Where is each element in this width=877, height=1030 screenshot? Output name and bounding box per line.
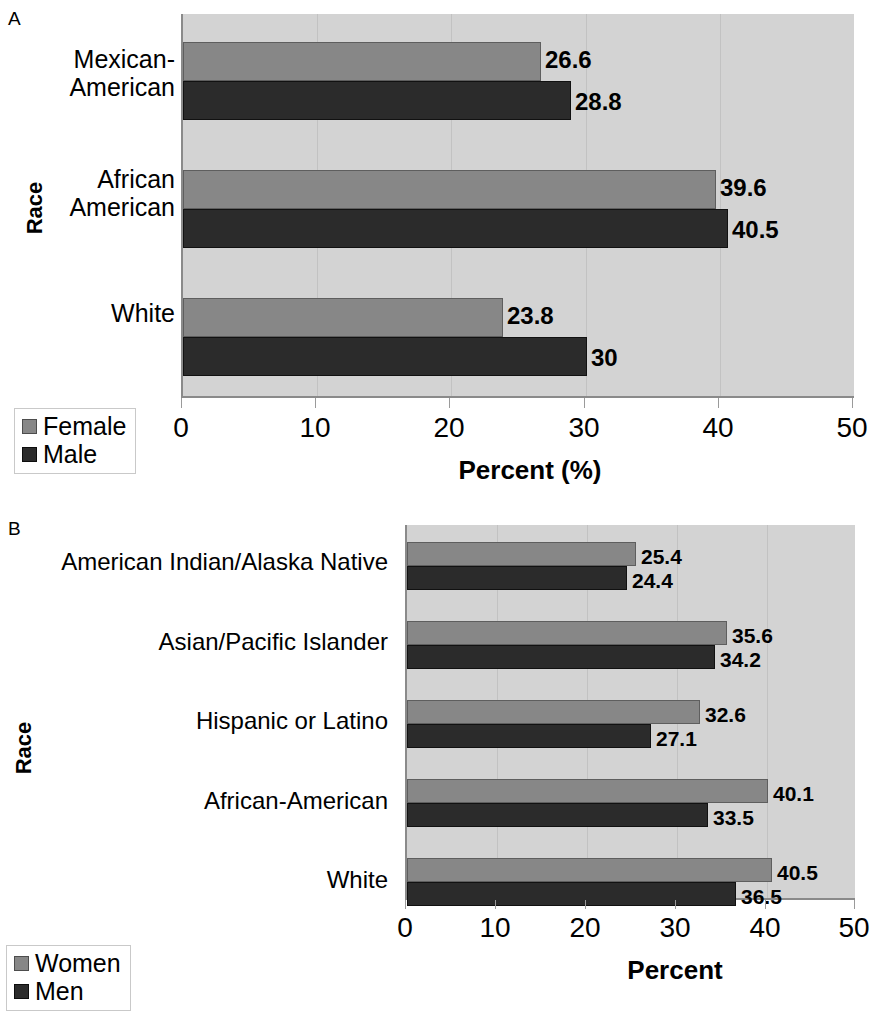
panel-b-bar-male-0	[407, 566, 627, 590]
panel-b-value-female-0: 25.4	[641, 546, 682, 567]
panel-a-tick-label-0: 0	[151, 412, 211, 444]
panel-a-value-male-0: 28.8	[575, 90, 622, 114]
panel-a-bar-female-1	[183, 170, 716, 209]
panel-a-category-label-1-line-1: American	[30, 194, 175, 222]
panel-b: B Race American Indian/Alaska Native Asi…	[0, 500, 877, 1030]
panel-b-category-label-2: Hispanic or Latino	[25, 708, 388, 734]
panel-b-bar-female-2	[407, 700, 700, 724]
panel-a-tick-40	[718, 398, 719, 408]
panel-a-legend-label-female: Female	[43, 414, 126, 439]
panel-b-category-label-3-line-0: African-American	[25, 788, 388, 814]
panel-a-bar-male-2	[183, 337, 587, 376]
panel-b-legend-item-men[interactable]: Men	[14, 979, 121, 1004]
panel-b-category-label-0: American Indian/Alaska Native	[25, 549, 388, 575]
panel-b-category-label-3: African-American	[25, 788, 388, 814]
panel-a-value-female-0: 26.6	[545, 48, 592, 72]
panel-a-tick-50	[852, 398, 853, 408]
panel-a-bar-female-2	[183, 298, 503, 337]
panel-a-letter: A	[8, 8, 21, 30]
panel-b-tick-20	[585, 900, 586, 909]
panel-a-bar-male-1	[183, 209, 728, 248]
panel-a-bar-male-0	[183, 81, 571, 120]
panel-b-bar-female-1	[407, 621, 727, 645]
panel-b-tick-label-4: 40	[735, 912, 795, 944]
panel-a-category-label-2-line-0: White	[30, 300, 175, 328]
panel-b-bar-male-1	[407, 645, 715, 669]
panel-b-category-label-2-line-0: Hispanic or Latino	[25, 708, 388, 734]
panel-b-legend-label-women: Women	[35, 951, 121, 976]
panel-a-value-female-2: 23.8	[507, 304, 554, 328]
panel-a-category-label-0-line-1: American	[30, 74, 175, 102]
panel-a-tick-label-2: 20	[419, 412, 479, 444]
legend-swatch-men-icon	[14, 984, 29, 999]
panel-a-x-axis-title: Percent (%)	[400, 455, 660, 486]
panel-b-tick-10	[495, 900, 496, 909]
panel-b-category-label-0-line-0: American Indian/Alaska Native	[25, 549, 388, 575]
panel-a-legend-item-female[interactable]: Female	[22, 414, 126, 439]
panel-a-plot-area	[181, 14, 854, 398]
panel-a-category-label-0: Mexican- American	[30, 46, 175, 101]
panel-b-tick-label-1: 10	[465, 912, 525, 944]
panel-b-bar-male-4	[407, 882, 736, 906]
panel-a-value-male-2: 30	[591, 346, 618, 370]
panel-b-tick-30	[675, 900, 676, 909]
panel-a: A Race Mexican- American African America…	[0, 0, 877, 500]
panel-b-tick-40	[765, 900, 766, 909]
panel-a-tick-label-5: 50	[822, 412, 877, 444]
panel-b-tick-label-3: 30	[645, 912, 705, 944]
panel-b-tick-label-0: 0	[375, 912, 435, 944]
panel-b-value-male-4: 36.5	[741, 886, 782, 907]
panel-b-value-male-1: 34.2	[720, 649, 761, 670]
panel-b-bar-female-3	[407, 779, 768, 803]
panel-a-tick-label-1: 10	[285, 412, 345, 444]
panel-b-plot-area	[405, 525, 855, 900]
panel-a-category-label-1: African American	[30, 166, 175, 221]
legend-swatch-women-icon	[14, 956, 29, 971]
panel-a-tick-label-3: 30	[554, 412, 614, 444]
panel-a-tick-10	[315, 398, 316, 408]
panel-b-value-female-1: 35.6	[732, 625, 773, 646]
panel-b-bar-female-0	[407, 542, 636, 566]
panel-a-tick-30	[584, 398, 585, 408]
panel-b-tick-50	[854, 900, 855, 909]
panel-a-tick-0	[181, 398, 182, 408]
panel-b-value-female-2: 32.6	[705, 704, 746, 725]
panel-a-category-label-2: White	[30, 300, 175, 328]
panel-b-value-female-4: 40.5	[777, 862, 818, 883]
panel-b-bar-male-2	[407, 724, 651, 748]
panel-a-gridline-40	[720, 14, 721, 396]
panel-b-bar-male-3	[407, 803, 708, 827]
panel-b-legend-label-men: Men	[35, 979, 84, 1004]
legend-swatch-male-icon	[22, 447, 37, 462]
panel-b-tick-label-2: 20	[555, 912, 615, 944]
panel-a-tick-label-4: 40	[688, 412, 748, 444]
panel-a-tick-20	[449, 398, 450, 408]
panel-a-bar-female-0	[183, 42, 541, 81]
panel-a-category-label-1-line-0: African	[30, 166, 175, 194]
panel-b-value-female-3: 40.1	[773, 783, 814, 804]
panel-b-tick-0	[405, 900, 406, 909]
panel-b-gridline-40	[767, 525, 768, 898]
panel-b-x-axis-title: Percent	[545, 955, 805, 986]
panel-b-value-male-0: 24.4	[632, 570, 673, 591]
panel-b-legend: Women Men	[6, 945, 131, 1011]
legend-swatch-female-icon	[22, 419, 37, 434]
panel-a-value-female-1: 39.6	[720, 176, 767, 200]
panel-b-category-label-1: Asian/Pacific Islander	[25, 629, 388, 655]
panel-a-legend-label-male: Male	[43, 442, 97, 467]
panel-b-category-label-1-line-0: Asian/Pacific Islander	[25, 629, 388, 655]
panel-a-legend: Female Male	[14, 408, 136, 474]
panel-a-category-label-0-line-0: Mexican-	[30, 46, 175, 74]
panel-a-legend-item-male[interactable]: Male	[22, 442, 126, 467]
panel-b-category-label-4: White	[25, 867, 388, 893]
panel-b-value-male-2: 27.1	[656, 728, 697, 749]
panel-b-value-male-3: 33.5	[713, 807, 754, 828]
panel-b-legend-item-women[interactable]: Women	[14, 951, 121, 976]
panel-a-value-male-1: 40.5	[732, 218, 779, 242]
panel-b-bar-female-4	[407, 858, 772, 882]
panel-b-category-label-4-line-0: White	[25, 867, 388, 893]
panel-b-tick-label-5: 50	[824, 912, 877, 944]
panel-b-letter: B	[8, 518, 21, 540]
